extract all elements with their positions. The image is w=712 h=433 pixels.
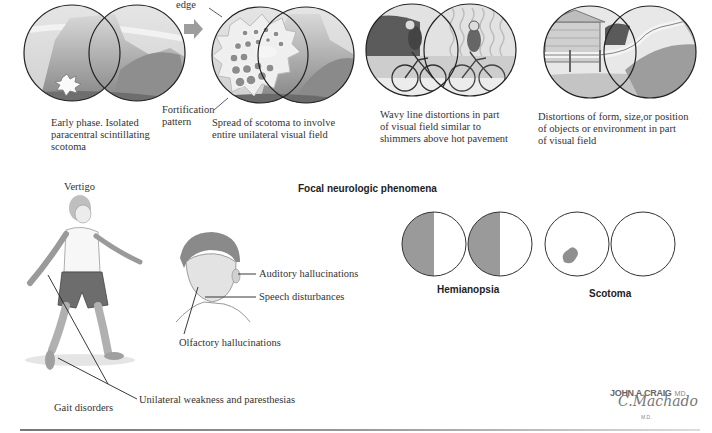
scotoma-spot-icon [563,247,578,263]
auditory-hallucinations-label: Auditory hallucinations [259,268,358,280]
section-title: Focal neurologic phenomena [298,183,437,194]
panel4-caption: Distortions of form, size,or position of… [538,111,689,147]
edge-leader-line [209,8,222,17]
panel3-caption: Wavy line distortions in part of visual … [380,109,508,145]
fortification-label: Fortification pattern [162,104,215,128]
unilateral-weakness-label: Unilateral weakness and paresthesias [139,394,295,406]
binocular-view-distortion [540,0,710,100]
gait-disorders-label: Gait disorders [54,402,113,414]
olfactory-leader-line [184,287,198,334]
co-artist-signature: C.Machado [618,393,698,409]
weakness-leader-line-main [108,384,137,399]
olfactory-hallucinations-label: Olfactory hallucinations [179,337,281,349]
binocular-view-early-phase [20,0,190,110]
hemianopsia-diagram [402,210,532,280]
progression-arrow-icon [184,19,203,39]
fortification-leader-line [214,98,228,110]
scotoma-label: Scotoma [589,288,631,299]
speech-disturbances-label: Speech disturbances [259,291,344,303]
girl-figure-illustration [25,195,140,399]
illustration-canvas [0,0,712,433]
edge-label: edge [176,0,196,10]
binocular-view-cyclists [360,0,530,100]
bottom-divider [20,429,700,431]
man-head-illustration [176,232,256,334]
binocular-view-fortification [200,0,360,110]
panel2-caption: Spread of scotoma to involve entire unil… [212,117,335,141]
co-artist-suffix: M.D. [641,414,652,420]
hemianopsia-label: Hemianopsia [437,284,499,295]
scotoma-diagram [545,212,675,276]
vertigo-label: Vertigo [64,181,95,193]
panel1-caption: Early phase. Isolated paracentral scinti… [51,117,150,153]
